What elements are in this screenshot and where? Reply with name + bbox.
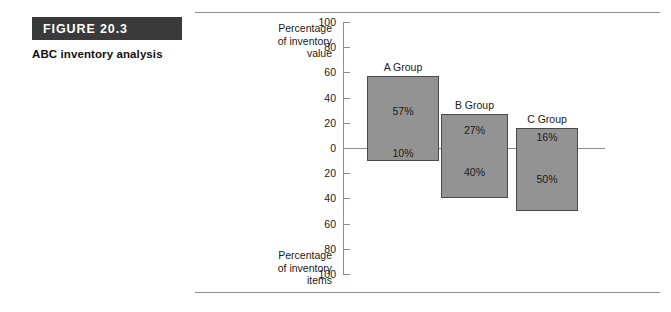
bar-value-label-value-b: 27% (441, 124, 508, 136)
y-axis-tick (343, 148, 350, 149)
bar-label-a-group: A Group (367, 61, 439, 73)
y-axis-tick-label: 40 (306, 192, 336, 204)
y-axis-tick (343, 47, 350, 48)
y-axis-tick (343, 274, 350, 275)
y-axis-tick (343, 98, 350, 99)
bar-value-label-items-c: 50% (516, 173, 578, 185)
chart-plot-area: Percentageof inventoryvalue Percentageof… (0, 0, 671, 312)
bar-value-label-value-c: 16% (516, 131, 578, 143)
figure-container: FIGURE 20.3 ABC inventory analysis Perce… (0, 0, 671, 312)
y-axis-tick-label: 100 (306, 16, 336, 28)
bar-value-label-items-b: 40% (441, 166, 508, 178)
bar-label-c-group: C Group (516, 113, 578, 125)
bar-value-label-value-a: 57% (367, 105, 439, 117)
y-axis-tick (343, 249, 350, 250)
bar-label-b-group: B Group (441, 99, 508, 111)
y-axis-tick-label: 40 (306, 92, 336, 104)
y-axis-tick-label: 60 (306, 218, 336, 230)
y-axis-tick-label: 20 (306, 117, 336, 129)
y-axis-tick-label: 80 (306, 243, 336, 255)
y-axis-tick (343, 224, 350, 225)
y-axis-tick (343, 173, 350, 174)
y-axis-tick-label: 60 (306, 66, 336, 78)
y-axis-tick-label: 20 (306, 167, 336, 179)
y-axis-tick (343, 123, 350, 124)
bar-value-label-items-a: 10% (367, 147, 439, 159)
y-axis-tick (343, 198, 350, 199)
y-axis-tick-label: 100 (306, 268, 336, 280)
y-axis-tick (343, 22, 350, 23)
y-axis-tick-label: 80 (306, 41, 336, 53)
y-axis-tick-label: 0 (306, 142, 336, 154)
y-axis-tick (343, 72, 350, 73)
